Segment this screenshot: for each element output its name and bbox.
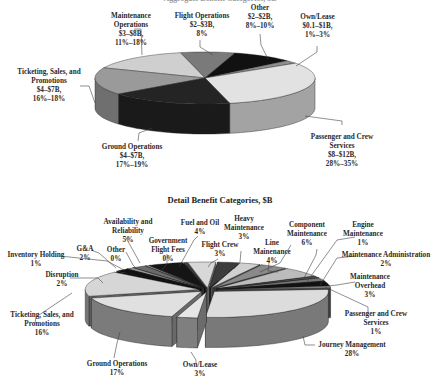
label-line: Maintenance [345, 273, 395, 282]
label-maintenance-overhead: Maintenance Overhead 3% [345, 273, 395, 300]
label-maintenance-administration: Maintenance Administration 2% [336, 251, 436, 269]
label-line: $2–$3B, [162, 21, 242, 30]
label-line: 3% [345, 291, 395, 300]
label-engine-maintenance: Engine Maintenance 1% [338, 221, 388, 248]
label-line: Disruption [40, 271, 84, 280]
label-line: $4–$7B, [92, 152, 172, 161]
label-inventory-holding: Inventory Holding 1% [4, 251, 68, 269]
label-line: 2% [336, 260, 436, 269]
label-line: 28% [310, 350, 394, 359]
label-line: 0% [104, 255, 128, 264]
label-line: 4% [175, 228, 225, 237]
label-line: 0% [143, 255, 193, 264]
label-line: 1% [4, 260, 68, 269]
label-line: Component [282, 221, 332, 230]
label-line: Fuel and Oil [175, 219, 225, 228]
label-ticketing: Ticketing, Sales, and Promotions $4–$7B,… [4, 68, 94, 104]
label-line: 16%–18% [4, 95, 94, 104]
top-pie-chart [95, 52, 315, 134]
label-line: Flight Operations [162, 12, 242, 21]
label-other-detail: Other 0% [104, 246, 128, 264]
label-line: Ground Operations [92, 143, 172, 152]
label-line: Inventory Holding [4, 251, 68, 260]
label-line: $2–$2B, [235, 13, 285, 22]
label-line: 2% [73, 254, 97, 263]
top-chart-title: Aggregate Benefit Categories, $B [110, 0, 330, 3]
label-line: Government [143, 237, 193, 246]
label-ground-operations-detail: Ground Operations 17% [82, 360, 152, 378]
label-line: Maintenance Administration [336, 251, 436, 260]
label-line: Mainenance [250, 248, 294, 257]
label-line: $0.1–$1B, [290, 22, 345, 31]
label-line: $4–$7B, [4, 86, 94, 95]
label-line: 8% [162, 30, 242, 39]
label-line: 8%–10% [235, 22, 285, 31]
label-disruption: Disruption 2% [40, 271, 84, 289]
label-line: Other [104, 246, 128, 255]
label-line: Reliability [100, 227, 156, 236]
label-ground-operations: Ground Operations $4–$7B, 17%–19% [92, 143, 172, 170]
label-own-lease-detail: Own/Lease 3% [180, 361, 220, 379]
label-line: Promotions [2, 320, 82, 329]
label-line: 1% [337, 328, 415, 337]
label-line: Engine [338, 221, 388, 230]
label-line: Availability and [100, 218, 156, 227]
label-ticketing-detail: Ticketing, Sales, and Promotions 16% [2, 311, 82, 338]
label-line: 16% [2, 329, 82, 338]
label-line: Journey Management [310, 341, 394, 350]
label-line: 4% [250, 257, 294, 266]
label-flight-operations: Flight Operations $2–$3B, 8% [162, 12, 242, 39]
label-line: Flight Fees [143, 246, 193, 255]
label-line: Ticketing, Sales, and [2, 311, 82, 320]
label-line: Services [337, 319, 415, 328]
label-line: Services [302, 142, 382, 151]
pie-slice [205, 289, 328, 347]
label-heavy-maintenance: Heavy Maintenance 3% [220, 215, 268, 242]
label-line: Promotions [4, 77, 94, 86]
label-line: 3% [198, 250, 242, 259]
label-other: Other $2–$2B, 8%–10% [235, 4, 285, 31]
label-journey-management: Journey Management 28% [310, 341, 394, 359]
label-line: 3% [180, 370, 220, 379]
label-line: Flight Crew [198, 241, 242, 250]
label-line: Line [250, 239, 294, 248]
label-line: Passenger and Crew [302, 133, 382, 142]
label-line: Heavy [220, 215, 268, 224]
label-line: Ground Operations [82, 360, 152, 369]
label-own-lease: Own/Lease $0.1–$1B, 1%–3% [290, 13, 345, 40]
label-line: Other [235, 4, 285, 13]
label-line: 17%–19% [92, 161, 172, 170]
label-government-flight-fees: Government Flight Fees 0% [143, 237, 193, 264]
label-passenger-crew: Passenger and Crew Services $8–$12B, 28%… [302, 133, 382, 169]
label-line: 28%–35% [302, 160, 382, 169]
label-line: Maintenance [338, 230, 388, 239]
label-line: 17% [82, 369, 152, 378]
label-line-maintenance: Line Mainenance 4% [250, 239, 294, 266]
label-ga: G&A 2% [73, 245, 97, 263]
label-fuel-oil: Fuel and Oil 4% [175, 219, 225, 237]
label-line: Ticketing, Sales, and [4, 68, 94, 77]
label-line: 1%–3% [290, 31, 345, 40]
label-line: Passenger and Crew [337, 310, 415, 319]
label-line: 2% [40, 280, 84, 289]
label-line: Own/Lease [290, 13, 345, 22]
detail-pie-chart [85, 262, 330, 348]
label-line: 1% [338, 239, 388, 248]
label-line: Own/Lease [180, 361, 220, 370]
label-flight-crew: Flight Crew 3% [198, 241, 242, 259]
label-line: G&A [73, 245, 97, 254]
label-line: Overhead [345, 282, 395, 291]
label-line: 11%–18% [86, 39, 176, 48]
detail-chart-title: Detail Benefit Categories, $B [150, 195, 290, 205]
label-passenger-crew-detail: Passenger and Crew Services 1% [337, 310, 415, 337]
label-line: Maintenance [282, 230, 332, 239]
label-line: $8–$12B, [302, 151, 382, 160]
label-line: Maintenance [220, 224, 268, 233]
